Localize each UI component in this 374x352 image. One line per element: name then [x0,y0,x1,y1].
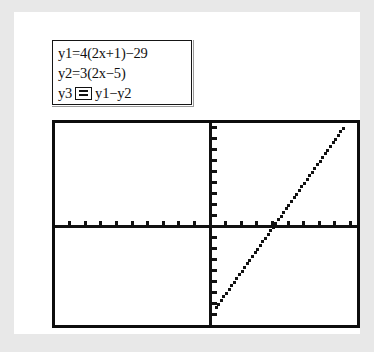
equation-row-y3-expression: y1−y2 [95,83,131,103]
content-card: y1=4(2x+1)−29 y2=3(2x−5) y3 y1−y2 [14,12,360,334]
graph-canvas [55,123,357,325]
equals-operator-box[interactable] [75,87,92,100]
equation-row-y3[interactable]: y3 y1−y2 [58,83,191,103]
equation-editor[interactable]: y1=4(2x+1)−29 y2=3(2x−5) y3 y1−y2 [52,40,192,105]
equation-row-y1[interactable]: y1=4(2x+1)−29 [58,43,191,63]
equation-row-y2[interactable]: y2=3(2x−5) [58,63,191,83]
graph-viewport[interactable] [52,120,360,328]
plot-svg [55,123,357,325]
screenshot-root: y1=4(2x+1)−29 y2=3(2x−5) y3 y1−y2 [0,0,374,352]
equation-row-y3-label: y3 [58,83,72,103]
